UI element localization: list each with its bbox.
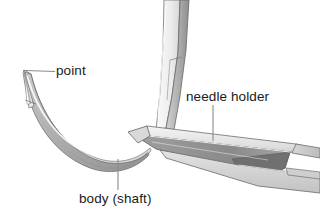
needle-holder-upper-jaw [156, 0, 189, 130]
needle-body-shaft [24, 70, 151, 172]
leader-line-point [25, 71, 55, 72]
label-body-shaft: body (shaft) [79, 192, 151, 206]
surgical-needle-diagram: point needle holder body (shaft) [0, 0, 320, 219]
label-point: point [56, 64, 86, 78]
illustration-canvas [0, 0, 320, 219]
label-needle-holder: needle holder [186, 90, 269, 104]
